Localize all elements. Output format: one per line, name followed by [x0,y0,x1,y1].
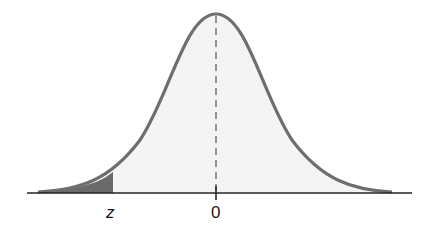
curve-area-fill [38,14,392,192]
z-label: z [106,203,115,223]
zero-label: 0 [211,203,220,223]
